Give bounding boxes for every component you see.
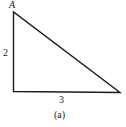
side-label-horizontal: 3 xyxy=(59,94,64,105)
figure-caption: (a) xyxy=(54,109,65,121)
triangle-diagram: A 2 3 (a) xyxy=(0,0,126,127)
side-label-vertical: 2 xyxy=(3,47,8,58)
vertex-label-a: A xyxy=(8,0,16,10)
triangle-figure: A 2 3 (a) xyxy=(0,0,126,127)
right-triangle xyxy=(14,12,121,93)
